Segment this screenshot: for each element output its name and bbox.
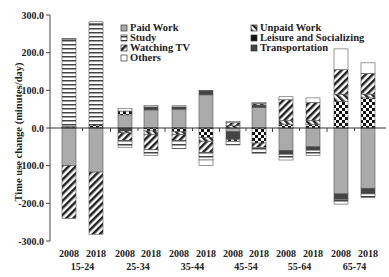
paid-work-swatch-icon (121, 25, 127, 31)
bar-segment-watching-tv (118, 133, 132, 141)
x-group-label: 35-44 (181, 261, 204, 272)
bar-segment-others (172, 106, 186, 107)
bar-segment-unpaid-work (199, 137, 213, 141)
bar-segment-watching-tv (199, 141, 213, 152)
unpaid-work-swatch-icon (251, 25, 257, 31)
bar-segment-study (226, 141, 240, 145)
x-group-label: 55-64 (288, 261, 311, 272)
x-year-label: 2018 (303, 248, 323, 259)
bar-segment-watching-tv (226, 123, 240, 126)
x-year-label: 2008 (223, 248, 243, 259)
y-tick-label: -200.0 (18, 198, 44, 209)
watching-tv-swatch-icon (121, 45, 127, 51)
y-tick-label: 0.0 (32, 123, 45, 134)
x-year-label: 2008 (169, 248, 189, 259)
legend-label: Transportation (260, 42, 328, 53)
bar-segment-paid-work (118, 115, 132, 128)
bar-segment-others (306, 98, 320, 103)
bar-segment-leisure-and-socializing (306, 125, 320, 128)
x-group-label: 15-24 (71, 261, 94, 272)
bar-segment-unpaid-work (334, 94, 348, 102)
bar-segment-transportation (279, 151, 293, 155)
leisure-swatch-icon (251, 35, 257, 41)
others-swatch-icon (121, 55, 127, 61)
bar-segment-watching-tv (306, 102, 320, 120)
bar-segment-watching-tv (89, 172, 103, 234)
bar-segment-study (199, 152, 213, 160)
x-year-label: 2008 (115, 248, 135, 259)
bar-segment-transportation (252, 105, 266, 107)
bar-segment-leisure-and-socializing (334, 102, 348, 128)
bar-segment-leisure-and-socializing (361, 98, 375, 128)
bar-segment-paid-work (361, 128, 375, 188)
bar-segment-paid-work (252, 107, 266, 128)
y-tick-label: 200.0 (22, 47, 45, 58)
bar-segment-unpaid-work (361, 94, 375, 98)
bar-segment-paid-work (334, 128, 348, 194)
bar-stack (306, 98, 320, 156)
bar-segment-paid-work (89, 128, 103, 172)
bar-segment-others (252, 102, 266, 103)
bar-segment-transportation (199, 90, 213, 95)
bar-segment-paid-work (144, 110, 158, 128)
bar-stack (144, 105, 158, 155)
bar-stack (361, 63, 375, 198)
x-year-label: 2008 (59, 248, 79, 259)
bar-segment-watching-tv (361, 73, 375, 94)
y-tick-label: -100.0 (18, 160, 44, 171)
bar-stack (172, 106, 186, 149)
bar-segment-paid-work (62, 128, 76, 166)
y-tick-label: -300.0 (18, 236, 44, 247)
bar-segment-others (334, 49, 348, 70)
y-tick-label: 100.0 (22, 85, 45, 96)
x-group-label: 45-54 (234, 261, 257, 272)
bar-segment-leisure-and-socializing (118, 111, 132, 115)
bar-segment-others (199, 160, 213, 166)
bar-segment-watching-tv (172, 135, 186, 141)
bar-segment-study (361, 194, 375, 198)
bar-segment-others (118, 108, 132, 111)
bar-segment-unpaid-work (306, 120, 320, 124)
x-year-label: 2018 (196, 248, 216, 259)
transportation-swatch-icon (251, 45, 257, 51)
bar-segment-transportation (226, 132, 240, 140)
bar-segment-study (172, 140, 186, 148)
bar-segment-leisure-and-socializing (199, 128, 213, 137)
bar-segment-paid-work (226, 128, 240, 132)
bar-segment-others (62, 38, 76, 39)
bar-segment-study (306, 150, 320, 155)
bar-segment-watching-tv (279, 100, 293, 121)
bar-segment-leisure-and-socializing (89, 125, 103, 127)
bar-segment-transportation (306, 147, 320, 150)
bar-segment-others (279, 97, 293, 100)
bar-segment-transportation (361, 188, 375, 194)
bar-segment-watching-tv (144, 135, 158, 150)
bar-segment-transportation (334, 194, 348, 200)
bar-segment-others (361, 63, 375, 74)
bar-segment-paid-work (199, 95, 213, 128)
bar-segment-study (62, 39, 76, 126)
bar-segment-transportation (172, 107, 186, 109)
bar-segment-leisure-and-socializing (252, 128, 266, 143)
bar-segment-paid-work (306, 128, 320, 147)
x-year-label: 2008 (276, 248, 296, 259)
bar-segment-leisure-and-socializing (279, 124, 293, 128)
bar-segment-leisure-and-socializing (172, 128, 186, 132)
bar-segment-study (334, 200, 348, 205)
bar-segment-study (279, 154, 293, 160)
x-group-label: 65-74 (343, 261, 366, 272)
x-year-label: 2018 (141, 248, 161, 259)
x-year-label: 2018 (86, 248, 106, 259)
stacked-bar-chart: Time use change (minutes/day) 300.0200.0… (0, 0, 389, 277)
legend-label: Others (130, 52, 161, 63)
legend: Paid Work Study Watching TV Others Unpai… (121, 22, 365, 63)
study-swatch-icon (121, 35, 127, 41)
bar-segment-others (144, 105, 158, 107)
bar-segment-study (144, 150, 158, 156)
bar-segment-paid-work (172, 109, 186, 128)
bar-segment-others (89, 22, 103, 24)
bar-stack (226, 122, 240, 145)
x-year-label: 2018 (249, 248, 269, 259)
bar-segment-unpaid-work (279, 120, 293, 124)
x-year-label: 2008 (331, 248, 351, 259)
